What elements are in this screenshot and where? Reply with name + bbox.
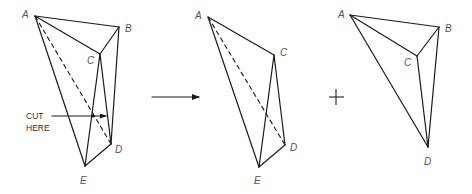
edge-AC <box>350 15 417 56</box>
edge-DE <box>85 144 111 166</box>
edge-AB <box>35 16 119 27</box>
vertex-label-C: C <box>404 57 412 68</box>
dissection-diagram: CUT HERE A B C D E A C D E A B C D <box>0 0 472 194</box>
figure-piece-ABCD: A B C D <box>337 9 452 167</box>
edge-CD <box>274 55 285 145</box>
hidden-edge-AD <box>208 17 285 145</box>
edge-CD <box>100 54 111 144</box>
figure-piece-ACDE: A C D E <box>194 10 297 186</box>
vertex-label-A: A <box>21 9 29 20</box>
vertex-label-D: D <box>424 156 431 167</box>
edge-AD <box>350 15 428 147</box>
figure-original: CUT HERE A B C D E <box>21 9 132 186</box>
vertex-label-D: D <box>115 144 122 155</box>
vertex-label-C: C <box>87 55 95 66</box>
vertex-label-A: A <box>337 9 345 20</box>
edge-AC <box>35 16 100 54</box>
edge-BC <box>100 27 119 54</box>
vertex-label-C: C <box>280 47 288 58</box>
edge-BD <box>428 27 439 147</box>
cut-label-line1: CUT <box>26 111 43 121</box>
vertex-label-B: B <box>125 23 132 34</box>
edge-AE <box>35 16 85 166</box>
vertex-label-B: B <box>445 23 452 34</box>
edge-AC <box>208 17 274 55</box>
vertex-label-E: E <box>254 175 261 186</box>
cut-point-dot <box>91 114 94 117</box>
edge-AB <box>350 15 439 27</box>
edge-BC <box>417 27 439 56</box>
edge-DE <box>259 145 285 167</box>
edge-CE <box>259 55 274 167</box>
vertex-label-E: E <box>80 175 87 186</box>
edge-CD <box>417 56 428 147</box>
vertex-label-A: A <box>194 10 202 21</box>
edge-BD <box>111 27 119 144</box>
edge-AE <box>208 17 259 167</box>
edge-CE <box>85 54 100 166</box>
cut-label-line2: HERE <box>26 123 50 133</box>
vertex-label-D: D <box>290 142 297 153</box>
plus-operator <box>329 89 344 105</box>
